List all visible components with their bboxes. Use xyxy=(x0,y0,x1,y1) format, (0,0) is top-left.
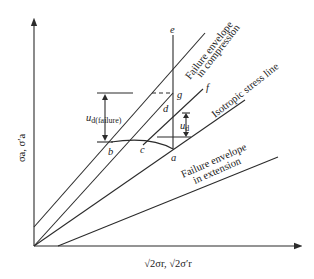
point-d-label: d xyxy=(163,103,169,114)
point-a-label: a xyxy=(171,152,176,163)
arrow-up-icon xyxy=(102,94,108,100)
x-axis-label: √2σr, √2σ′r xyxy=(144,258,192,269)
stress-path-diagram: σa, σ′a √2σr, √2σ′r ud(failure) ud e g f… xyxy=(0,0,314,279)
point-e-label: e xyxy=(170,24,175,35)
point-f-label: f xyxy=(206,82,211,93)
arrow-down-icon xyxy=(102,135,108,141)
point-b-label: b xyxy=(108,146,113,157)
point-g-label: g xyxy=(177,89,182,100)
compression-envelope-label: Failure envelope xyxy=(183,19,235,81)
y-axis-label: σa, σ′a xyxy=(16,134,27,163)
ud-failure-label: ud(failure) xyxy=(86,112,122,125)
point-c-label: c xyxy=(140,144,145,155)
extension-envelope-line xyxy=(58,157,278,246)
ud-label: ud xyxy=(180,120,189,133)
isotropic-line-label: Isotropic stress line xyxy=(209,60,280,119)
arrow-up-icon xyxy=(183,113,189,118)
